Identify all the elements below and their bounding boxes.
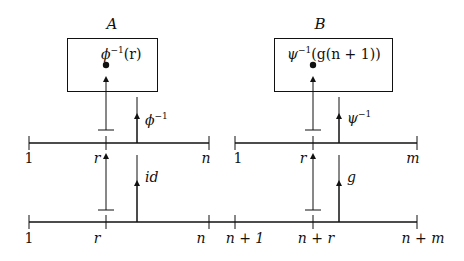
psi-inverse-label: ψ−1 bbox=[347, 109, 371, 126]
tick-label: 1 bbox=[234, 150, 243, 166]
tick-label: 1 bbox=[25, 230, 34, 246]
phi-inverse-label: ϕ−1 bbox=[145, 111, 168, 128]
id-label: id bbox=[145, 169, 158, 185]
box-a: A ϕ−1(r) bbox=[68, 15, 158, 92]
tick-label: r bbox=[94, 150, 102, 166]
arrow-r-to-box-a bbox=[98, 79, 114, 130]
tick-label: n + r bbox=[298, 230, 336, 246]
box-a-title: A bbox=[105, 15, 118, 33]
box-a-content: ϕ−1(r) bbox=[101, 45, 141, 62]
middle-left-line bbox=[29, 136, 209, 150]
arrow-r-to-r bbox=[98, 156, 114, 210]
mapping-diagram: A ϕ−1(r) B ψ−1(g(n + 1)) 1 r n 1 r m bbox=[0, 0, 464, 261]
arrow-r-to-box-b bbox=[305, 79, 321, 130]
tick-label: r bbox=[300, 150, 308, 166]
tick-label: r bbox=[94, 230, 102, 246]
tick-label: n + m bbox=[402, 230, 445, 246]
g-label: g bbox=[347, 169, 356, 185]
middle-right-line bbox=[235, 136, 417, 150]
point-dot bbox=[310, 62, 316, 68]
tick-label: n + 1 bbox=[226, 230, 265, 246]
tick-label: n bbox=[196, 230, 205, 246]
tick-label: n bbox=[201, 150, 210, 166]
tick-label: m bbox=[406, 150, 419, 166]
box-b-content: ψ−1(g(n + 1)) bbox=[287, 45, 381, 62]
point-dot bbox=[103, 62, 109, 68]
bottom-line bbox=[29, 215, 417, 229]
box-b-title: B bbox=[313, 15, 325, 33]
arrow-n-plus-r-to-r bbox=[305, 156, 321, 210]
tick-label: 1 bbox=[25, 150, 34, 166]
box-b: B ψ−1(g(n + 1)) bbox=[275, 15, 393, 92]
